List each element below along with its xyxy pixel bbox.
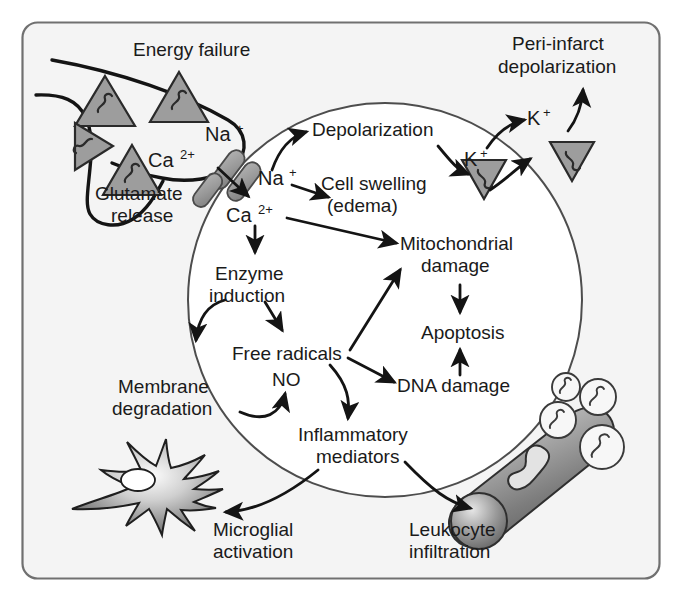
microglial-activation-label-line1: Microglial (213, 519, 293, 540)
svg-text:K: K (464, 148, 478, 170)
edema-label: (edema) (327, 195, 398, 216)
svg-text:K: K (527, 107, 541, 129)
membrane-degradation-label-line1: Membrane (118, 376, 209, 397)
microglial-activation-label-line2: activation (213, 541, 293, 562)
leukocyte-infiltration-label-line2: infiltration (409, 541, 490, 562)
svg-text:2+: 2+ (258, 202, 273, 217)
ischemic-cascade-figure: Energy failure Glutamate release Na + Ca… (0, 0, 677, 597)
figure-canvas: Energy failure Glutamate release Na + Ca… (0, 0, 677, 597)
svg-text:Ca: Ca (226, 204, 252, 226)
svg-text:+: + (480, 146, 488, 161)
energy-failure-label: Energy failure (133, 39, 250, 60)
no-label: NO (272, 369, 301, 390)
svg-text:+: + (543, 105, 551, 120)
glutamate-release-label-line1: Glutamate (95, 183, 183, 204)
enzyme-induction-label-line2: induction (209, 285, 285, 306)
mitochondrial-damage-label-line1: Mitochondrial (400, 233, 513, 254)
enzyme-induction-label-line1: Enzyme (215, 263, 284, 284)
svg-text:Na: Na (258, 167, 284, 189)
svg-text:+: + (236, 121, 244, 136)
cell-swelling-label: Cell swelling (321, 173, 427, 194)
svg-text:Na: Na (205, 123, 231, 145)
inflammatory-mediators-label-line2: mediators (316, 446, 399, 467)
leukocyte-infiltration-label-line1: Leukocyte (409, 519, 496, 540)
depolarization-label: Depolarization (312, 119, 433, 140)
dna-damage-label: DNA damage (397, 375, 510, 396)
peri-infarct-label-line2: depolarization (498, 56, 616, 77)
membrane-degradation-label-line2: degradation (112, 398, 212, 419)
apoptosis-label: Apoptosis (421, 322, 504, 343)
svg-text:2+: 2+ (180, 147, 195, 162)
svg-text:+: + (289, 165, 297, 180)
svg-text:Ca: Ca (148, 149, 174, 171)
inflammatory-mediators-label-line1: Inflammatory (298, 424, 408, 445)
peri-infarct-label-line1: Peri-infarct (512, 33, 605, 54)
mitochondrial-damage-label-line2: damage (421, 255, 490, 276)
free-radicals-label: Free radicals (232, 343, 342, 364)
glutamate-release-label-line2: release (111, 205, 173, 226)
